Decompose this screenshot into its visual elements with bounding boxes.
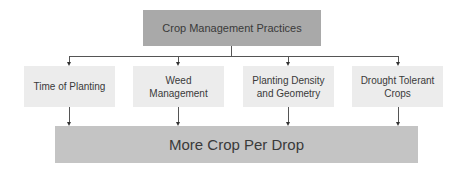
child-label: Drought Tolerant Crops bbox=[356, 74, 439, 100]
crop-management-practices-box: Crop Management Practices bbox=[143, 10, 321, 46]
more-crop-per-drop-box: More Crop Per Drop bbox=[55, 126, 418, 163]
top-connector bbox=[231, 46, 232, 56]
child-label: Time of Planting bbox=[34, 80, 106, 93]
down-line-4 bbox=[398, 107, 399, 123]
down-line-3 bbox=[288, 107, 289, 123]
horizontal-bus bbox=[69, 56, 399, 57]
time-of-planting-box: Time of Planting bbox=[24, 66, 115, 107]
planting-density-geometry-box: Planting Density and Geometry bbox=[243, 66, 334, 107]
outcome-label: More Crop Per Drop bbox=[169, 136, 304, 153]
top-box-label: Crop Management Practices bbox=[162, 22, 301, 34]
child-label: Planting Density and Geometry bbox=[247, 74, 330, 100]
child-label: Weed Management bbox=[137, 74, 220, 100]
down-line-2 bbox=[178, 107, 179, 123]
down-line-1 bbox=[69, 107, 70, 123]
weed-management-box: Weed Management bbox=[133, 66, 224, 107]
drought-tolerant-crops-box: Drought Tolerant Crops bbox=[352, 66, 443, 107]
